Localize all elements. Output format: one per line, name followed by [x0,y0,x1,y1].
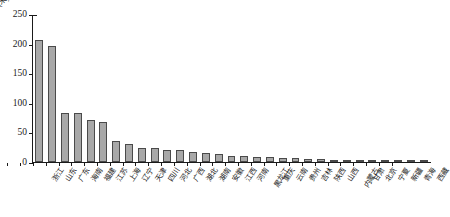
bar-slot [48,15,56,162]
x-axis-category-label: 宁夏 [398,167,412,183]
bar [176,150,184,162]
x-axis-category-label: 河南 [257,167,271,183]
bar-slot [407,15,415,162]
y-axis-tick-label: 250 [13,10,27,20]
x-axis-tick [276,163,277,166]
bar-slot [292,15,300,162]
x-axis-tick [59,163,60,166]
bar-slot [112,15,120,162]
bar-slot [240,15,248,162]
bar [99,122,107,162]
bar [381,160,389,162]
bar-slot [138,15,146,162]
bar-slot [163,15,171,162]
plot-area: 050100150200250 [32,15,431,163]
bar [394,160,402,162]
bar [202,153,210,162]
x-axis-category-label: 湖南 [218,167,232,183]
y-axis-tick-label: 200 [13,40,27,50]
bar-slot [151,15,159,162]
bar-slot [35,15,43,162]
bar [228,156,236,162]
bar [343,160,351,162]
x-axis-tick [7,163,8,166]
x-axis-category-label: 浙江 [52,167,66,183]
bar-slot [304,15,312,162]
bar [356,160,364,162]
x-axis-tick [33,163,34,166]
y-axis-tick-label: 150 [13,69,27,79]
x-axis-tick [340,163,341,166]
x-axis-tick [212,163,213,166]
bar-slot [202,15,210,162]
bar [125,144,133,162]
x-axis-category-label: 云南 [295,167,309,183]
bar-slot [343,15,351,162]
x-axis-tick [366,163,367,166]
bar-slot [368,15,376,162]
x-axis-category-label: 河北 [180,167,194,183]
bar-slot [279,15,287,162]
bar [151,148,159,162]
bar [420,160,428,162]
x-axis-category-label: 广西 [193,167,207,183]
x-axis-tick [264,163,265,166]
bar [292,158,300,162]
bar [189,152,197,162]
x-axis-tick [328,163,329,166]
x-axis-tick [135,163,136,166]
x-axis-category-label: 四川 [167,167,181,183]
bar-slot [74,15,82,162]
bar [112,141,120,162]
bar [304,159,312,162]
x-axis-tick [353,163,354,166]
y-axis-tick-label: 100 [13,99,27,109]
bar [61,113,69,162]
bar-slot [420,15,428,162]
x-axis-category-label: 西藏 [436,167,450,183]
x-axis-category-label: 山东 [65,167,79,183]
bar [279,158,287,162]
bar [317,159,325,162]
x-axis-category-labels: 浙江山东广东海南福建江苏上海辽宁天津四川河北广西湖北湖南安徽江西河南黑龙江重庆云… [32,167,435,217]
bar-slot [228,15,236,162]
x-axis-category-label: 辽宁 [141,167,155,183]
bar-series [33,15,431,162]
bar-slot [125,15,133,162]
x-axis-tick [187,163,188,166]
bar [330,160,338,162]
bar [368,160,376,162]
bar-slot [394,15,402,162]
bar-slot [215,15,223,162]
bar-slot [87,15,95,162]
x-axis-tick [123,163,124,166]
x-axis-category-label: 上海 [129,167,143,183]
x-axis-category-label: 陕西 [334,167,348,183]
bar [163,150,171,162]
bar-slot [189,15,197,162]
bar [48,46,56,162]
x-axis-tick [200,163,201,166]
x-axis-category-label: 江苏 [116,167,130,183]
x-axis-tick [392,163,393,166]
x-axis-category-label: 吉林 [321,167,335,183]
bar [253,157,261,162]
x-axis-tick [20,163,21,166]
x-axis-category-label: 山西 [346,167,360,183]
bar-slot [356,15,364,162]
bar-slot [176,15,184,162]
x-axis-tick [46,163,47,166]
y-axis-tick-label: 50 [18,129,28,139]
bar [74,113,82,162]
x-axis-tick [84,163,85,166]
bar-slot [99,15,107,162]
bar-slot [253,15,261,162]
bar [266,157,274,162]
bar [35,40,43,162]
x-axis-category-label: 广东 [77,167,91,183]
x-axis-category-label: 天津 [154,167,168,183]
x-axis-category-label: 湖北 [205,167,219,183]
x-axis-category-label: 海南 [90,167,104,183]
bar [240,156,248,162]
